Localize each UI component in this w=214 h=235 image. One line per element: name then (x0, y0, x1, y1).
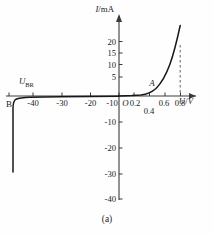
y-tick-label-5: 5 (112, 72, 116, 82)
y-tick-label-15: 15 (107, 48, 116, 58)
x-axis-tick-labels-positive: 0.2 0.4 0.6 0.8 (130, 98, 186, 116)
y-axis-unit: mA (101, 4, 115, 14)
breakdown-voltage-label: UBR (19, 76, 35, 88)
y-axis-tick-labels-negative: -10 -20 -30 -40 (105, 117, 116, 204)
x-tick-label-minus40: -40 (27, 98, 38, 108)
x-tick-label-minus30: -30 (56, 98, 67, 108)
y-axis-tick-labels-positive: 5 10 15 20 (107, 37, 116, 83)
x-tick-label-0p4: 0.4 (144, 106, 155, 116)
y-tick-label-minus10: -10 (105, 117, 116, 127)
y-tick-label-20: 20 (107, 37, 116, 47)
figure-caption: (a) (102, 214, 112, 225)
y-tick-label-minus20: -20 (105, 143, 116, 153)
x-tick-label-0p6: 0.6 (159, 98, 170, 108)
x-axis-title-text: U/V (179, 96, 195, 106)
x-tick-label-0p2: 0.2 (130, 98, 141, 108)
point-b-label: B (6, 99, 12, 109)
diode-iv-characteristic-chart: -40 -30 -20 -10 O 0.2 0.4 0.6 0.8 U/V (0, 0, 214, 235)
x-axis-unit: V (188, 96, 195, 106)
x-tick-label-minus20: -20 (85, 98, 96, 108)
x-axis-tick-labels-negative: -40 -30 -20 -10 (27, 98, 117, 108)
y-tick-label-minus40: -40 (105, 194, 116, 204)
x-axis-title: U/V (179, 96, 195, 106)
point-a-label: A (148, 78, 155, 88)
y-tick-label-minus30: -30 (105, 169, 116, 179)
origin-label: O (122, 98, 129, 108)
y-tick-label-10: 10 (107, 60, 116, 70)
breakdown-voltage-subscript: BR (25, 81, 34, 88)
y-axis-arrowhead (116, 14, 122, 22)
figure-container: -40 -30 -20 -10 O 0.2 0.4 0.6 0.8 U/V (0, 0, 214, 235)
y-axis-title: I/mA (94, 4, 114, 14)
x-tick-label-minus10: -10 (106, 98, 117, 108)
y-axis-title-text: I/mA (94, 4, 114, 14)
